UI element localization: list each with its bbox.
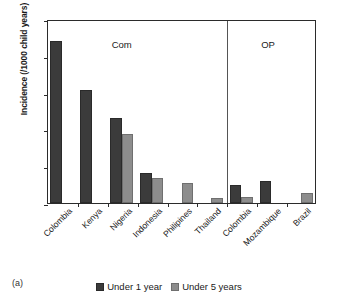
legend-swatch-icon (96, 283, 104, 291)
group-divider (227, 21, 228, 203)
legend-label: Under 1 year (107, 281, 162, 292)
figure-panel: Incidence (/1000 child years) 0501001502… (0, 0, 338, 303)
y-tick-mark (44, 95, 48, 96)
y-tick-mark (44, 58, 48, 59)
y-tick-mark (44, 131, 48, 132)
bar (152, 178, 164, 203)
bar (122, 134, 134, 203)
group-label: OP (261, 39, 275, 50)
legend-swatch-icon (171, 283, 179, 291)
legend-item: Under 5 years (171, 281, 242, 292)
legend-label: Under 5 years (182, 281, 242, 292)
legend-item: Under 1 year (96, 281, 162, 292)
panel-caption: (a) (12, 278, 23, 288)
y-tick-mark (44, 168, 48, 169)
bar (50, 41, 62, 203)
plot-area: 050100150200250 ComOP (47, 20, 316, 204)
y-axis-title: Incidence (/1000 child years) (19, 0, 29, 145)
x-axis-labels: ColombiaKenyaNigeriaIndonesiaPhilipinesT… (47, 206, 316, 268)
y-tick-mark (44, 21, 48, 22)
group-label: Com (112, 39, 132, 50)
chart-legend: Under 1 yearUnder 5 years (0, 281, 338, 292)
